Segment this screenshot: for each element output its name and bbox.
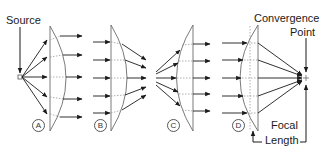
focal-label-line1: Focal: [271, 119, 298, 131]
panel-label-c: C: [167, 119, 180, 132]
focal-label-line2: Length: [265, 134, 299, 146]
convergence-label-line1: Convergence: [254, 12, 319, 24]
panel-c: [156, 25, 210, 131]
lens-a: [50, 26, 66, 131]
panel-label-b: B: [94, 119, 107, 132]
panel-b: [93, 25, 146, 131]
source-point-icon: [18, 75, 22, 79]
panel-label-d: D: [232, 119, 245, 132]
source-label: Source: [6, 14, 41, 26]
convergence-point-icon: [303, 75, 309, 81]
lens-b: [111, 25, 127, 131]
panel-a: [18, 26, 82, 131]
lens-c: [177, 25, 194, 131]
lens-diagram: Source Convergence Point Focal Length A …: [0, 0, 326, 152]
panel-label-a: A: [32, 119, 45, 132]
convergence-label-line2: Point: [290, 26, 315, 38]
